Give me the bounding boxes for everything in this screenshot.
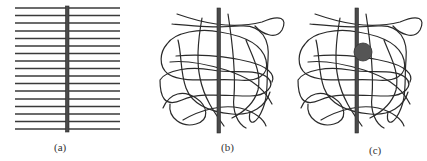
panel-c: (c) (298, 8, 422, 157)
panel-c-label: (c) (369, 144, 382, 157)
attached-particle (354, 43, 372, 61)
rod-a (66, 6, 70, 132)
panel-a-label: (a) (54, 141, 67, 154)
rod-c (355, 8, 359, 133)
figure-canvas: (a) (b) (0, 0, 427, 161)
panel-b: (b) (160, 8, 284, 154)
rod-b (217, 8, 221, 133)
entangled-chains-c (298, 14, 422, 128)
entangled-chains-b (160, 14, 284, 128)
panel-a: (a) (15, 6, 120, 154)
panel-b-label: (b) (221, 141, 234, 154)
